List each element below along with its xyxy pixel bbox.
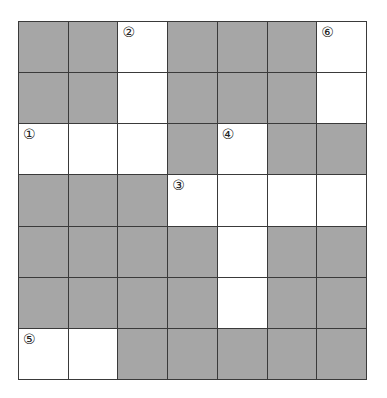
blocked-cell <box>118 278 167 328</box>
blocked-cell <box>218 329 267 379</box>
blocked-cell <box>118 175 167 225</box>
blocked-cell <box>168 278 217 328</box>
blocked-cell <box>168 73 217 123</box>
blocked-cell <box>69 227 118 277</box>
open-cell[interactable] <box>268 175 317 225</box>
blocked-cell <box>268 329 317 379</box>
open-cell[interactable]: ② <box>118 22 167 72</box>
blocked-cell <box>168 227 217 277</box>
clue-number: ③ <box>172 178 185 192</box>
blocked-cell <box>19 73 68 123</box>
open-cell[interactable] <box>218 227 267 277</box>
blocked-cell <box>317 227 366 277</box>
open-cell[interactable]: ④ <box>218 124 267 174</box>
blocked-cell <box>69 175 118 225</box>
clue-number: ① <box>23 127 36 141</box>
blocked-cell <box>69 278 118 328</box>
clue-number: ⑥ <box>321 25 334 39</box>
open-cell[interactable] <box>218 175 267 225</box>
blocked-cell <box>317 329 366 379</box>
open-cell[interactable] <box>317 175 366 225</box>
open-cell[interactable]: ⑤ <box>19 329 68 379</box>
blocked-cell <box>268 22 317 72</box>
blocked-cell <box>19 175 68 225</box>
blocked-cell <box>268 73 317 123</box>
blocked-cell <box>168 329 217 379</box>
open-cell[interactable] <box>69 124 118 174</box>
clue-number: ④ <box>222 127 235 141</box>
crossword-grid: ②⑥①④③⑤ <box>18 21 367 380</box>
open-cell[interactable]: ③ <box>168 175 217 225</box>
clue-number: ⑤ <box>23 332 36 346</box>
blocked-cell <box>218 73 267 123</box>
blocked-cell <box>19 227 68 277</box>
blocked-cell <box>317 278 366 328</box>
blocked-cell <box>317 124 366 174</box>
blocked-cell <box>268 227 317 277</box>
blocked-cell <box>19 22 68 72</box>
open-cell[interactable] <box>118 73 167 123</box>
blocked-cell <box>118 329 167 379</box>
open-cell[interactable] <box>118 124 167 174</box>
blocked-cell <box>118 227 167 277</box>
blocked-cell <box>19 278 68 328</box>
open-cell[interactable] <box>218 278 267 328</box>
open-cell[interactable] <box>69 329 118 379</box>
blocked-cell <box>168 22 217 72</box>
clue-number: ② <box>122 25 135 39</box>
open-cell[interactable]: ① <box>19 124 68 174</box>
blocked-cell <box>268 124 317 174</box>
blocked-cell <box>268 278 317 328</box>
blocked-cell <box>168 124 217 174</box>
blocked-cell <box>69 22 118 72</box>
blocked-cell <box>69 73 118 123</box>
open-cell[interactable] <box>317 73 366 123</box>
open-cell[interactable]: ⑥ <box>317 22 366 72</box>
blocked-cell <box>218 22 267 72</box>
